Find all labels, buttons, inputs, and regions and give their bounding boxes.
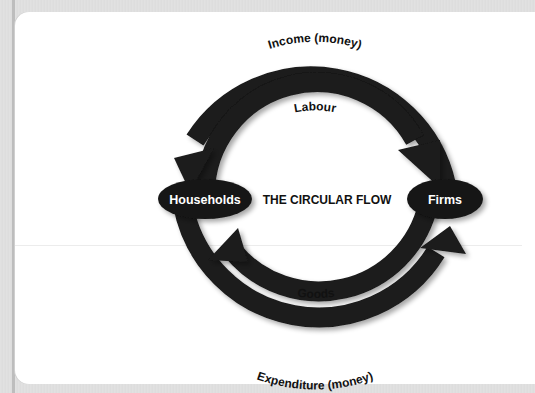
labour-label: Labour — [293, 99, 338, 115]
goods-arrow — [232, 205, 428, 291]
goods-arrowhead-icon — [208, 228, 248, 262]
expenditure-label: Expenditure (money) — [255, 369, 374, 393]
income-label: Income (money) — [266, 31, 363, 52]
goods-label: Goods — [297, 286, 336, 302]
households-label: Households — [169, 193, 241, 207]
firms-label: Firms — [428, 193, 462, 207]
diagram-title: THE CIRCULAR FLOW — [263, 193, 392, 207]
